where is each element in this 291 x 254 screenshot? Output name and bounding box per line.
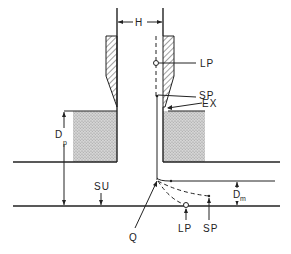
sp-trajectory [158, 181, 209, 196]
dp-subscript: p [63, 139, 67, 147]
lp-marker-top [154, 61, 159, 66]
sp-bottom-arrow-icon [207, 198, 211, 203]
dm-subscript: m [240, 195, 246, 202]
left-hatched-wall [106, 36, 117, 107]
su-arrow-icon [99, 200, 103, 205]
h-label: H [135, 17, 143, 28]
lp-bottom-arrow-icon [184, 208, 188, 213]
dp-arrow-down-icon [62, 200, 66, 205]
h-arrow-right-icon [157, 20, 162, 24]
sp-marker-bottom [208, 195, 210, 197]
lp-bottom-label: LP [178, 223, 192, 234]
dm-arrow-up-icon [235, 182, 239, 187]
lp-top-label: LP [200, 58, 214, 69]
ex-label: EX [202, 98, 217, 109]
q-leader [135, 181, 157, 228]
impingement-point [170, 180, 172, 182]
h-arrow-left-icon [118, 20, 123, 24]
lp-marker-bottom [184, 203, 189, 208]
lp-trajectory [158, 181, 186, 205]
left-stipple-block [73, 111, 117, 162]
impingement-curve [157, 178, 170, 181]
su-label: SU [94, 181, 110, 192]
dp-arrow-up-icon [62, 112, 66, 117]
dp-label: D [55, 129, 63, 140]
right-stipple-block [163, 111, 205, 162]
flow-diagram: H LP SP EX D p SU Q LP SP D [0, 0, 291, 254]
ex-arrow-icon [167, 105, 172, 110]
right-hatched-wall [163, 36, 174, 107]
sp-marker-top [156, 95, 159, 98]
sp-bottom-label: SP [203, 223, 218, 234]
ex-leader [168, 103, 202, 108]
q-label: Q [129, 232, 138, 243]
